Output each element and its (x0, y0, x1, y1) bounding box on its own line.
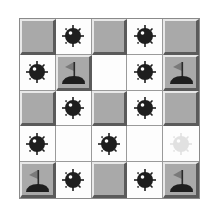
cell-r4-c2-empty[interactable] (56, 126, 92, 162)
cell-r2-c4-mine[interactable] (127, 55, 163, 91)
cell-r2-c2-flag[interactable] (56, 55, 92, 91)
cell-r4-c5-ghost-mine[interactable] (163, 126, 199, 162)
mine-icon (133, 24, 157, 48)
cell-r5-c5-flag[interactable] (163, 162, 199, 198)
flag-icon (167, 166, 195, 194)
mine-icon (133, 96, 157, 120)
mine-icon (97, 132, 121, 156)
mine-icon (25, 132, 49, 156)
cell-r5-c1-flag[interactable] (20, 162, 56, 198)
mine-icon (61, 96, 85, 120)
cell-r4-c3-mine[interactable] (92, 126, 128, 162)
cell-r2-c1-mine[interactable] (20, 55, 56, 91)
cell-r3-c5-raised[interactable] (163, 91, 199, 127)
flag-icon (59, 58, 87, 86)
mine-icon (133, 168, 157, 192)
flag-icon (23, 166, 51, 194)
cell-r5-c4-mine[interactable] (127, 162, 163, 198)
mine-icon (133, 60, 157, 84)
game-board (19, 18, 200, 199)
cell-r1-c4-mine[interactable] (127, 19, 163, 55)
cell-r5-c2-mine[interactable] (56, 162, 92, 198)
cell-r1-c5-raised[interactable] (163, 19, 199, 55)
cell-r4-c1-mine[interactable] (20, 126, 56, 162)
cell-r1-c1-raised[interactable] (20, 19, 56, 55)
cell-r3-c4-mine[interactable] (127, 91, 163, 127)
cell-r1-c2-mine[interactable] (56, 19, 92, 55)
cell-r1-c3-raised[interactable] (92, 19, 128, 55)
cell-r4-c4-empty[interactable] (127, 126, 163, 162)
mine-icon (25, 60, 49, 84)
cell-r2-c3-empty[interactable] (92, 55, 128, 91)
cell-r2-c5-flag[interactable] (163, 55, 199, 91)
cell-r3-c1-raised[interactable] (20, 91, 56, 127)
ghost-mine-icon (169, 132, 193, 156)
cell-r3-c3-raised[interactable] (92, 91, 128, 127)
flag-icon (167, 58, 195, 86)
mine-icon (61, 168, 85, 192)
mine-icon (61, 24, 85, 48)
cell-r3-c2-mine[interactable] (56, 91, 92, 127)
cell-r5-c3-raised[interactable] (92, 162, 128, 198)
